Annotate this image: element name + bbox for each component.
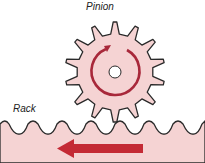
axle-hole	[109, 66, 121, 78]
rack-and-pinion-diagram	[0, 0, 205, 163]
rack-arrow-shaft	[72, 144, 143, 153]
rack	[0, 121, 205, 163]
rack-label: Rack	[13, 103, 36, 114]
pinion-label: Pinion	[86, 1, 114, 12]
